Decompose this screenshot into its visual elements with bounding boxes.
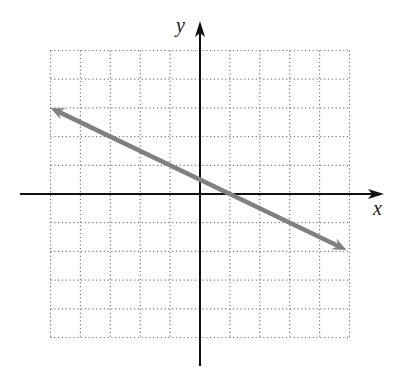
- axes: [20, 21, 384, 366]
- x-axis-label: x: [373, 197, 382, 220]
- plotted-line-segment: [58, 111, 340, 246]
- coordinate-plane: [0, 0, 399, 385]
- plotted-line: [51, 108, 347, 250]
- y-axis-label: y: [176, 14, 185, 37]
